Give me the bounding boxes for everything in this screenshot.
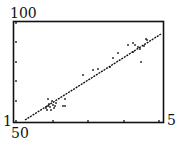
data-point — [55, 102, 57, 104]
data-point — [158, 120, 160, 122]
data-point — [82, 74, 84, 76]
data-point — [127, 44, 129, 46]
data-point — [64, 105, 66, 107]
data-point — [140, 61, 142, 63]
x-max-label: 5 — [167, 113, 176, 127]
data-point — [54, 105, 56, 107]
data-point — [51, 100, 53, 102]
data-point — [134, 44, 136, 46]
data-point — [132, 42, 134, 44]
x-min-label: 50 — [11, 126, 29, 140]
regression-line — [25, 34, 161, 120]
data-point — [92, 69, 94, 71]
data-point — [49, 106, 51, 108]
data-point — [53, 107, 55, 109]
plot-frame — [14, 22, 164, 123]
data-point — [47, 98, 49, 100]
data-point — [64, 98, 66, 100]
data-point — [62, 105, 64, 107]
data-point — [15, 120, 17, 122]
y-max-label: 100 — [10, 6, 37, 20]
data-point — [123, 120, 125, 122]
data-point — [15, 100, 17, 102]
data-point — [52, 120, 54, 122]
data-point — [87, 120, 89, 122]
data-point — [52, 104, 54, 106]
data-point — [15, 41, 17, 43]
data-point — [50, 109, 52, 111]
data-point — [15, 80, 17, 82]
data-point — [146, 39, 148, 41]
data-points — [15, 22, 160, 122]
scatter-plot — [0, 0, 178, 141]
data-point — [15, 22, 17, 24]
data-point — [46, 109, 48, 111]
data-point — [15, 61, 17, 63]
data-point — [137, 46, 139, 48]
data-point — [139, 48, 141, 50]
data-point — [97, 68, 99, 70]
data-point — [117, 52, 119, 54]
data-point — [112, 57, 114, 59]
